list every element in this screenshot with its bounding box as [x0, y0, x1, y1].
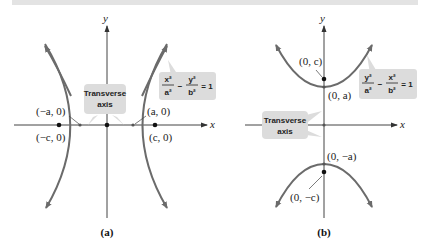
- callout-line1-b: Transverse: [264, 116, 307, 125]
- eq-a-term1-den: a²: [164, 88, 171, 97]
- eq-b-term1-num: y²: [364, 73, 371, 82]
- eq-a-term1-num: x²: [164, 75, 171, 84]
- eq-a-term2-den: b²: [188, 88, 196, 97]
- y-axis-label-b: y: [319, 12, 325, 24]
- vertex-pos-a-b: [322, 85, 325, 88]
- eq-b-rhs: = 1: [401, 80, 413, 89]
- eq-b-term2-den: b²: [388, 86, 396, 95]
- label-pos-a-a: (a, 0): [147, 105, 171, 118]
- panel-b: y x Transverse axis y² a² − x² b² = 1: [245, 12, 417, 239]
- caption-a: (a): [101, 226, 114, 239]
- equation-callout-b: y² a² − x² b² = 1: [359, 55, 417, 99]
- center-b: [322, 123, 325, 126]
- eq-b-term2-num: x²: [388, 73, 395, 82]
- label-neg-c-a: (−c, 0): [36, 131, 66, 144]
- focus-neg-c-b: [322, 170, 327, 175]
- center-a: [105, 123, 110, 128]
- equation-callout-a: x² a² − y² b² = 1: [159, 60, 216, 100]
- panel-a: y x Transverse axis x² a² − y² b² = 1: [14, 12, 216, 239]
- eq-b-minus: −: [378, 80, 383, 89]
- focus-pos-c-b: [322, 77, 327, 82]
- hyperbola-left-branch-a-top: [45, 46, 71, 96]
- vertex-neg-a-b: [322, 162, 325, 165]
- eq-a-term2-num: y²: [188, 75, 195, 84]
- eq-b-term1-den: a²: [364, 86, 371, 95]
- transverse-axis-callout-a: Transverse axis: [84, 84, 127, 125]
- label-pos-a-b: (0, a): [328, 89, 352, 102]
- hyperbola-lower-branch-b-right: [324, 164, 372, 207]
- eq-a-rhs: = 1: [201, 82, 213, 91]
- x-axis-label-b: x: [399, 118, 405, 130]
- eq-a-minus: −: [178, 82, 183, 91]
- y-axis-label-a: y: [102, 12, 108, 24]
- label-neg-a-b: (0, −a): [327, 150, 357, 163]
- callout-line2-a: axis: [97, 100, 113, 109]
- label-neg-c-b: (0, −c): [290, 191, 320, 204]
- x-axis-label-a: x: [209, 118, 215, 130]
- callout-line2-b: axis: [277, 127, 293, 136]
- focus-neg-c-a: [57, 123, 62, 128]
- focus-pos-c-a: [153, 123, 158, 128]
- caption-b: (b): [317, 226, 331, 239]
- vertex-pos-a-a: [131, 123, 134, 126]
- callout-line1-a: Transverse: [84, 89, 127, 98]
- label-pos-c-b: (0, c): [299, 55, 323, 68]
- hyperbola-diagrams: y x Transverse axis x² a² − y² b² = 1: [0, 0, 426, 251]
- label-neg-a-a: (−a, 0): [36, 105, 66, 118]
- label-pos-c-a: (c, 0): [149, 131, 173, 144]
